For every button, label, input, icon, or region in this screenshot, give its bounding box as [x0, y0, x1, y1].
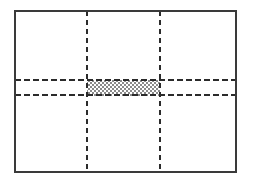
shaded-region	[87, 80, 160, 96]
schematic-diagram	[0, 0, 253, 185]
figure-canvas	[0, 0, 253, 185]
